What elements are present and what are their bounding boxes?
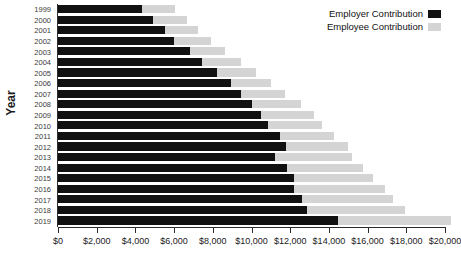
x-axis-tick (368, 227, 369, 233)
x-axis-tick (213, 227, 214, 233)
bar-segment-employer (58, 26, 165, 34)
bar-row: 2019 (58, 215, 445, 226)
chart-legend: Employer ContributionEmployee Contributi… (327, 8, 441, 34)
bar-row: 2013 (58, 152, 445, 163)
bar-segment-employee (275, 153, 351, 161)
bar-row: 2012 (58, 141, 445, 152)
y-axis-tick-label: 2005 (34, 68, 51, 77)
bar-segment-employee (217, 68, 256, 76)
y-axis-tick-label: 1999 (34, 5, 51, 14)
bar-segment-employer (58, 216, 338, 224)
y-axis-tick-label: 2018 (34, 206, 51, 215)
x-axis-tick-label: $12,000 (274, 236, 307, 246)
y-axis-tick-label: 2014 (34, 163, 51, 172)
bar-row: 2006 (58, 78, 445, 89)
bar-segment-employer (58, 68, 217, 76)
bar-segment-employer (58, 111, 261, 119)
bar-row: 2003 (58, 46, 445, 57)
bar-row: 2015 (58, 173, 445, 184)
x-axis-tick-label: $0 (53, 236, 63, 246)
x-axis-tick (406, 227, 407, 233)
bar-segment-employer (58, 132, 280, 140)
x-axis-tick (135, 227, 136, 233)
y-axis-tick-label: 2006 (34, 79, 51, 88)
bar-row: 2002 (58, 36, 445, 47)
y-axis-tick-label: 2000 (34, 15, 51, 24)
bar-segment-employee (174, 37, 212, 45)
bar-segment-employee (294, 185, 385, 193)
bar-segment-employee (153, 16, 186, 24)
legend-item[interactable]: Employer Contribution (327, 8, 441, 19)
bar-segment-employee (286, 142, 349, 150)
x-axis-tick (174, 227, 175, 233)
bar-segment-employer (58, 37, 174, 45)
bar-row: 2008 (58, 99, 445, 110)
legend-item-label: Employee Contribution (327, 21, 423, 32)
bar-segment-employer (58, 47, 190, 55)
x-axis-tick-label: $16,000 (351, 236, 384, 246)
y-axis-tick-label: 2003 (34, 47, 51, 56)
bar-segment-employer (58, 58, 202, 66)
bar-segment-employee (280, 132, 335, 140)
bar-segment-employer (58, 195, 302, 203)
bar-row: 2010 (58, 120, 445, 131)
y-axis-tick-label: 2011 (35, 132, 51, 141)
employer-swatch (428, 10, 441, 18)
y-axis-tick-label: 2013 (34, 153, 51, 162)
x-axis-tick (252, 227, 253, 233)
x-axis-tick-label: $14,000 (313, 236, 346, 246)
y-axis-tick-label: 2008 (34, 100, 51, 109)
bar-segment-employer (58, 185, 294, 193)
x-axis-tick (329, 227, 330, 233)
bar-segment-employer (58, 90, 241, 98)
x-axis-tick-label: $4,000 (122, 236, 150, 246)
legend-item[interactable]: Employee Contribution (327, 21, 441, 32)
y-axis-tick-label: 2001 (34, 26, 51, 35)
bar-segment-employee (338, 216, 451, 224)
bar-row: 2005 (58, 67, 445, 78)
bar-segment-employee (142, 5, 175, 13)
legend-item-label: Employer Contribution (329, 8, 423, 19)
bar-segment-employer (58, 164, 287, 172)
bar-segment-employee (294, 174, 373, 182)
x-axis-tick-label: $8,000 (199, 236, 227, 246)
y-axis-tick-label: 2017 (34, 195, 51, 204)
y-axis-tick-label: 2016 (34, 184, 51, 193)
bar-row: 2004 (58, 57, 445, 68)
y-axis-tick-label: 2004 (34, 58, 51, 67)
employee-swatch (428, 23, 441, 31)
bar-row: 2018 (58, 205, 445, 216)
y-axis-title: Year (4, 80, 18, 126)
bar-segment-employer (58, 142, 286, 150)
x-axis-tick-label: $6,000 (160, 236, 188, 246)
plot-area: 1999200020012002200320042005200620072008… (58, 4, 445, 226)
bar-segment-employee (252, 100, 301, 108)
x-axis-tick (58, 227, 59, 233)
bar-segment-employee (307, 206, 405, 214)
bar-segment-employee (261, 111, 314, 119)
bar-segment-employee (190, 47, 225, 55)
bar-segment-employer (58, 5, 142, 13)
bar-row: 2016 (58, 184, 445, 195)
bar-segment-employer (58, 174, 294, 182)
bar-segment-employer (58, 16, 153, 24)
y-axis-tick-label: 2015 (34, 174, 51, 183)
bar-row: 2007 (58, 89, 445, 100)
bar-segment-employee (241, 90, 285, 98)
bar-row: 2009 (58, 110, 445, 121)
y-axis-tick-label: 2012 (34, 142, 51, 151)
x-axis-tick-label: $20,000 (429, 236, 461, 246)
bar-segment-employer (58, 153, 275, 161)
y-axis-tick-label: 2010 (34, 121, 51, 130)
bar-segment-employer (58, 206, 307, 214)
bar-row: 2014 (58, 163, 445, 174)
x-axis-tick-label: $18,000 (390, 236, 423, 246)
x-axis-tick-label: $10,000 (235, 236, 268, 246)
bar-segment-employee (302, 195, 393, 203)
x-axis-tick (97, 227, 98, 233)
bar-row: 2011 (58, 131, 445, 142)
bar-segment-employee (202, 58, 241, 66)
bar-segment-employer (58, 121, 268, 129)
y-axis-tick-label: 2019 (34, 216, 51, 225)
